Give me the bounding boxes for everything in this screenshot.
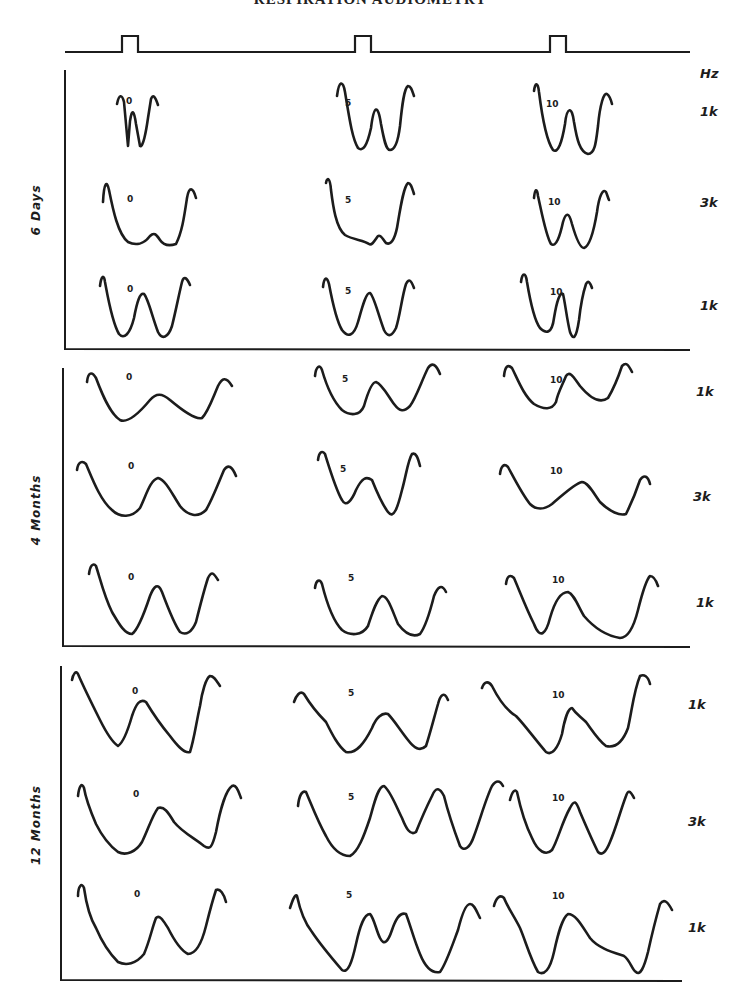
respiration-trace xyxy=(504,364,632,408)
db-level-label: 0 xyxy=(126,372,132,382)
db-level-label: 0 xyxy=(134,889,140,899)
traces-group xyxy=(72,83,672,973)
age-label: 6 Days xyxy=(29,184,43,235)
frequency-label: 1k xyxy=(696,595,715,610)
frequency-label: 3k xyxy=(700,195,719,210)
respiration-trace xyxy=(298,782,503,857)
db-level-label: 5 xyxy=(342,374,348,384)
db-level-label: 10 xyxy=(546,99,559,109)
frequency-label: 1k xyxy=(688,920,707,935)
respiration-trace xyxy=(323,279,414,335)
db-level-label: 5 xyxy=(346,890,352,900)
respiration-trace xyxy=(337,83,414,150)
respiration-trace xyxy=(482,675,650,753)
respiration-trace xyxy=(315,581,446,636)
respiration-trace xyxy=(534,190,609,248)
db-level-label: 10 xyxy=(550,375,563,385)
age-label: 12 Months xyxy=(29,785,43,865)
db-level-label: 10 xyxy=(552,891,565,901)
respiration-trace xyxy=(103,184,196,245)
db-level-label: 0 xyxy=(133,789,139,799)
frequency-label: 3k xyxy=(693,489,712,504)
frequency-label: 1k xyxy=(696,384,715,399)
frequency-label: 1k xyxy=(700,298,719,313)
respiration-trace xyxy=(326,179,414,244)
respiration-trace xyxy=(77,462,236,516)
respiration-audiometry-figure: Hz 6 Days1k3k1k0510051005104 Months1k3k1… xyxy=(0,0,741,1003)
frequency-label: 1k xyxy=(688,697,707,712)
db-level-label: 5 xyxy=(348,573,354,583)
frequency-label: 1k xyxy=(700,104,719,119)
respiration-trace xyxy=(500,465,650,514)
respiration-trace xyxy=(315,365,440,414)
respiration-trace xyxy=(521,275,592,337)
db-level-label: 0 xyxy=(128,572,134,582)
respiration-trace xyxy=(78,885,226,964)
stimulus-marker-line xyxy=(65,36,690,52)
respiration-trace xyxy=(294,693,448,753)
db-level-label: 10 xyxy=(552,575,565,585)
db-level-label: 0 xyxy=(126,96,132,106)
db-level-label: 10 xyxy=(548,197,561,207)
respiration-trace xyxy=(290,895,480,972)
db-level-label: 0 xyxy=(132,686,138,696)
db-level-label: 10 xyxy=(552,793,565,803)
respiration-trace xyxy=(318,452,420,514)
db-level-label: 10 xyxy=(550,466,563,476)
db-level-label: 0 xyxy=(127,194,133,204)
unit-label-hz: Hz xyxy=(700,66,719,81)
db-level-label: 5 xyxy=(340,464,346,474)
respiration-trace xyxy=(89,564,218,634)
respiration-trace xyxy=(506,576,658,638)
db-level-label: 5 xyxy=(348,688,354,698)
respiration-trace xyxy=(87,373,232,420)
age-label: 4 Months xyxy=(29,475,43,547)
db-level-label: 5 xyxy=(345,195,351,205)
respiration-trace xyxy=(78,785,241,853)
db-level-label: 0 xyxy=(128,461,134,471)
respiration-trace xyxy=(72,672,220,752)
db-level-label: 5 xyxy=(345,286,351,296)
respiration-trace xyxy=(510,790,634,853)
panels-group: 6 Days1k3k1k0510051005104 Months1k3k1k05… xyxy=(29,70,719,981)
panel-4-months: 4 Months1k3k1k051005100510 xyxy=(29,368,715,647)
respiration-trace xyxy=(117,96,158,146)
respiration-trace xyxy=(494,896,672,973)
db-level-label: 5 xyxy=(348,792,354,802)
db-level-label: 0 xyxy=(127,284,133,294)
db-level-label: 10 xyxy=(552,690,565,700)
frequency-label: 3k xyxy=(688,814,707,829)
respiration-trace xyxy=(534,84,612,154)
respiration-trace xyxy=(100,277,190,337)
